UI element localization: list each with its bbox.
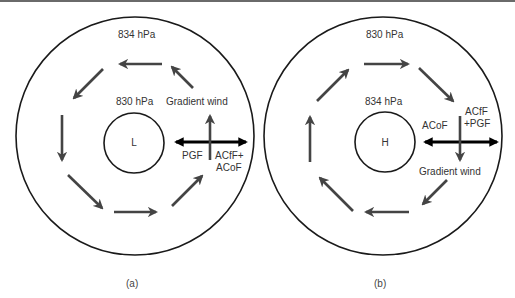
acof-label-b: ACoF [422,120,448,132]
acff-label-b: ACfF [465,106,488,118]
high-pressure-center-label: H [378,137,392,149]
diagram-canvas [0,0,515,298]
panel-b-high [264,17,502,255]
pgf-label-b: +PGF [464,118,490,130]
gradient-wind-label-a: Gradient wind [166,96,228,108]
pgf-label-a: PGF [182,150,203,162]
panel-a-low [16,17,254,255]
inner-isobar-label-a: 830 hPa [116,96,153,108]
acof-label-a: ACoF [216,162,242,174]
outer-isobar-circle-a [16,17,254,255]
acff-label-a: ACfF+ [215,150,244,162]
inner-isobar-label-b: 834 hPa [365,96,402,108]
caption-a: (a) [126,278,138,290]
caption-b: (b) [374,278,386,290]
outer-isobar-label-a: 834 hPa [118,29,155,41]
outer-isobar-circle-b [264,17,502,255]
outer-isobar-label-b: 830 hPa [366,29,403,41]
low-pressure-center-label: L [127,137,141,149]
gradient-wind-label-b: Gradient wind [419,166,481,178]
